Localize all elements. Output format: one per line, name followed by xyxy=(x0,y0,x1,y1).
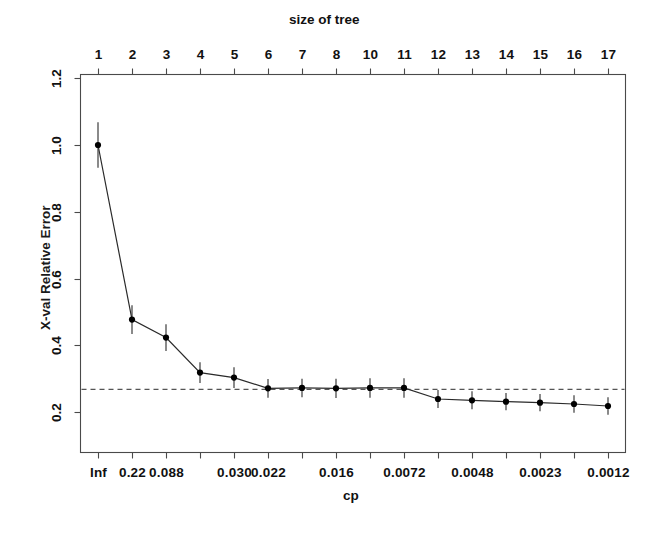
top-tick-label: 14 xyxy=(499,47,514,62)
y-tick-label: 0.6 xyxy=(48,270,63,289)
bottom-tick-label: 0.022 xyxy=(251,465,286,480)
top-tick-label: 13 xyxy=(465,47,480,62)
top-tick-label: 5 xyxy=(231,47,239,62)
left-axis-ticks xyxy=(75,79,81,413)
data-point xyxy=(571,401,577,407)
bottom-tick-label: Inf xyxy=(90,465,107,480)
data-points xyxy=(95,142,611,409)
bottom-axis-ticks xyxy=(99,453,609,459)
y-tick-label: 1.0 xyxy=(48,136,63,155)
top-tick-label: 6 xyxy=(265,47,273,62)
top-tick-label: 1 xyxy=(95,47,103,62)
data-point xyxy=(299,385,305,391)
top-axis-ticks xyxy=(99,69,609,75)
top-tick-label: 4 xyxy=(197,47,205,62)
top-tick-label: 17 xyxy=(601,47,616,62)
data-point xyxy=(605,403,611,409)
data-point xyxy=(231,375,237,381)
data-point xyxy=(333,385,339,391)
data-point xyxy=(435,396,441,402)
bottom-tick-label: 0.088 xyxy=(149,465,184,480)
top-tick-label: 11 xyxy=(397,47,412,62)
top-tick-label: 15 xyxy=(533,47,548,62)
top-tick-label: 2 xyxy=(129,47,137,62)
y-axis-title: X-val Relative Error xyxy=(38,205,53,330)
data-point xyxy=(129,316,135,322)
bottom-tick-label: 0.0048 xyxy=(451,465,494,480)
bottom-tick-label: 0.016 xyxy=(319,465,354,480)
data-point xyxy=(163,334,169,340)
bottom-tick-label: 0.0023 xyxy=(519,465,562,480)
plot-frame xyxy=(81,75,626,453)
data-point xyxy=(503,399,509,405)
data-point xyxy=(265,385,271,391)
top-tick-label: 7 xyxy=(299,47,307,62)
top-tick-label: 8 xyxy=(333,47,341,62)
bottom-axis-title: cp xyxy=(343,488,359,503)
top-tick-label: 12 xyxy=(431,47,446,62)
bottom-tick-label: 0.22 xyxy=(119,465,146,480)
top-tick-label: 10 xyxy=(363,47,378,62)
data-point xyxy=(469,397,475,403)
y-tick-label: 0.4 xyxy=(48,336,63,355)
rpart-cp-plot: size of tree cp X-val Relative Error 123… xyxy=(0,0,654,534)
data-line xyxy=(98,145,608,406)
data-point xyxy=(367,385,373,391)
bottom-tick-label: 0.030 xyxy=(217,465,252,480)
data-point xyxy=(95,142,101,148)
y-tick-label: 1.2 xyxy=(48,69,63,88)
y-tick-label: 0.2 xyxy=(48,403,63,422)
data-point xyxy=(401,385,407,391)
plot-canvas xyxy=(0,0,654,534)
error-bars xyxy=(98,122,608,414)
top-tick-label: 3 xyxy=(163,47,171,62)
top-tick-label: 16 xyxy=(567,47,582,62)
bottom-tick-label: 0.0072 xyxy=(383,465,426,480)
data-point xyxy=(537,400,543,406)
bottom-tick-label: 0.0012 xyxy=(587,465,630,480)
top-axis-title: size of tree xyxy=(289,12,360,27)
y-tick-label: 0.8 xyxy=(48,203,63,222)
data-point xyxy=(197,370,203,376)
